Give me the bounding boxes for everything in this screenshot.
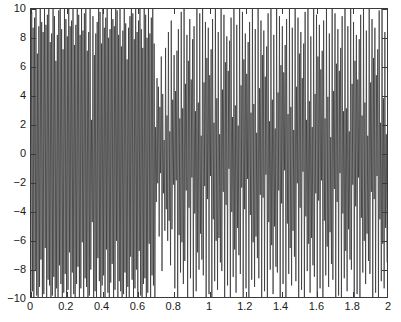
y-tick-2 bbox=[31, 241, 36, 242]
y-tick-label-2: −6 bbox=[0, 235, 26, 246]
y-tick-right-1 bbox=[382, 270, 387, 271]
signal-polyline bbox=[31, 9, 387, 297]
y-tick-8 bbox=[31, 67, 36, 68]
y-tick-label-9: 8 bbox=[0, 32, 26, 43]
x-tick-top-5 bbox=[210, 9, 211, 14]
y-tick-4 bbox=[31, 183, 36, 184]
x-tick-7 bbox=[282, 292, 283, 297]
signal-line-series bbox=[31, 9, 387, 297]
x-tick-0 bbox=[31, 292, 32, 297]
y-tick-right-9 bbox=[382, 38, 387, 39]
y-tick-right-10 bbox=[382, 9, 387, 10]
y-tick-right-7 bbox=[382, 96, 387, 97]
y-tick-right-3 bbox=[382, 212, 387, 213]
y-tick-label-3: −4 bbox=[0, 206, 26, 217]
x-tick-2 bbox=[103, 292, 104, 297]
x-tick-label-10: 2 bbox=[358, 301, 401, 312]
figure-container: −10−8−6−4−20246810 00.20.40.60.811.21.41… bbox=[0, 0, 401, 322]
y-tick-label-4: −2 bbox=[0, 177, 26, 188]
x-tick-top-8 bbox=[317, 9, 318, 14]
plot-axes-box bbox=[30, 8, 388, 298]
y-tick-right-6 bbox=[382, 125, 387, 126]
y-tick-right-8 bbox=[382, 67, 387, 68]
x-tick-8 bbox=[317, 292, 318, 297]
x-tick-top-9 bbox=[353, 9, 354, 14]
y-tick-label-8: 6 bbox=[0, 61, 26, 72]
y-tick-5 bbox=[31, 154, 36, 155]
x-tick-top-7 bbox=[282, 9, 283, 14]
y-tick-9 bbox=[31, 38, 36, 39]
x-tick-9 bbox=[353, 292, 354, 297]
x-tick-3 bbox=[138, 292, 139, 297]
y-tick-right-4 bbox=[382, 183, 387, 184]
y-tick-label-1: −8 bbox=[0, 264, 26, 275]
x-tick-top-1 bbox=[67, 9, 68, 14]
x-tick-top-6 bbox=[246, 9, 247, 14]
x-tick-5 bbox=[210, 292, 211, 297]
x-tick-top-3 bbox=[138, 9, 139, 14]
y-tick-3 bbox=[31, 212, 36, 213]
y-tick-1 bbox=[31, 270, 36, 271]
y-tick-label-6: 2 bbox=[0, 119, 26, 130]
y-tick-6 bbox=[31, 125, 36, 126]
x-tick-top-0 bbox=[31, 9, 32, 14]
x-tick-1 bbox=[67, 292, 68, 297]
x-tick-top-4 bbox=[174, 9, 175, 14]
y-tick-7 bbox=[31, 96, 36, 97]
y-tick-label-7: 4 bbox=[0, 90, 26, 101]
y-tick-label-10: 10 bbox=[0, 3, 26, 14]
x-tick-6 bbox=[246, 292, 247, 297]
y-tick-label-5: 0 bbox=[0, 148, 26, 159]
x-tick-4 bbox=[174, 292, 175, 297]
y-tick-right-5 bbox=[382, 154, 387, 155]
x-tick-top-2 bbox=[103, 9, 104, 14]
y-tick-right-2 bbox=[382, 241, 387, 242]
